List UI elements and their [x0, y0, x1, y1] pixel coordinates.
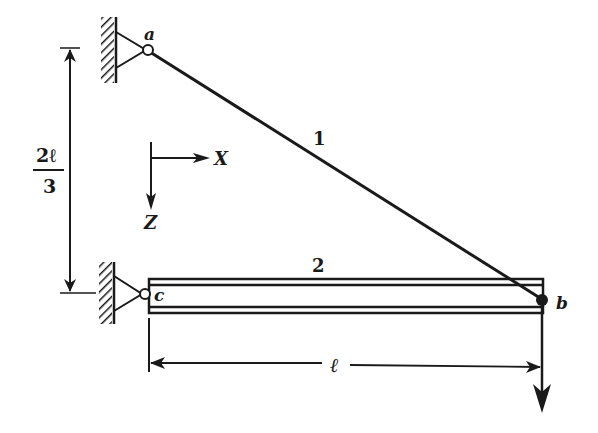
length-label: ℓ — [330, 353, 339, 377]
node-c-label: c — [154, 285, 165, 305]
height-denominator: 3 — [43, 175, 56, 197]
wall-support-c — [99, 262, 142, 324]
bar-2 — [149, 279, 543, 313]
member-1-label: 1 — [313, 128, 326, 149]
length-dimension — [149, 318, 541, 373]
member-2-label: 2 — [312, 255, 325, 276]
coordinate-axes-icon — [146, 142, 210, 210]
axis-x-label: X — [213, 148, 229, 169]
height-numerator: 2ℓ — [36, 144, 56, 166]
pin-a — [143, 45, 153, 55]
axis-z-label: Z — [143, 212, 158, 233]
truss-diagram: 2ℓ 3 ℓ X Z a b c 1 2 — [0, 0, 598, 433]
node-b-label: b — [556, 293, 568, 313]
load-arrow-icon — [533, 300, 551, 413]
bar-1 — [150, 52, 540, 298]
height-dimension — [33, 48, 96, 293]
wall-support-a — [101, 17, 146, 83]
pin-c — [140, 289, 150, 299]
node-a-label: a — [144, 24, 155, 44]
